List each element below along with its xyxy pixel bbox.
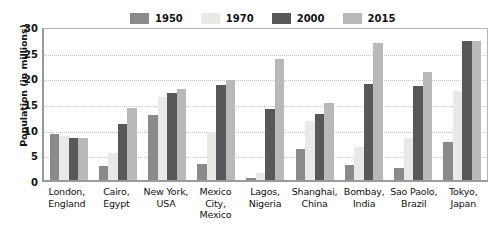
x-axis-labels: London,EnglandCairo,EgyptNew York,USAMex… xyxy=(42,186,488,221)
bar-2000[interactable] xyxy=(364,84,374,181)
legend-swatch-icon xyxy=(201,13,220,24)
x-axis-label: Sao Paolo,Brazil xyxy=(389,186,439,221)
legend-swatch-icon xyxy=(130,13,149,24)
x-axis-label-line: Mexico xyxy=(191,209,241,221)
x-axis-label: New York,USA xyxy=(141,186,191,221)
y-tick-label: 0 xyxy=(16,177,38,188)
bar-group xyxy=(93,29,142,180)
y-axis-ticks: 051015202530 xyxy=(14,0,38,227)
y-tick-label: 20 xyxy=(16,74,38,85)
x-axis-label-line: Nigeria xyxy=(240,198,290,210)
bar-1970[interactable] xyxy=(59,136,69,180)
bar-group xyxy=(192,29,241,180)
bar-group xyxy=(44,29,93,180)
bar-2000[interactable] xyxy=(118,124,128,180)
x-axis-label-line: Sao Paolo, xyxy=(389,186,439,198)
x-axis-label-line: Japan xyxy=(439,198,489,210)
bar-2000[interactable] xyxy=(167,93,177,180)
bar-1950[interactable] xyxy=(296,149,306,180)
legend-item-1950[interactable]: 1950 xyxy=(130,13,183,24)
bar-2015[interactable] xyxy=(275,59,285,180)
bar-1970[interactable] xyxy=(453,91,463,180)
y-tick-label: 25 xyxy=(16,48,38,59)
bar-1950[interactable] xyxy=(197,164,207,180)
bar-groups xyxy=(44,29,487,180)
bar-2000[interactable] xyxy=(216,85,226,180)
x-axis-label-line: City, xyxy=(191,198,241,210)
bar-2000[interactable] xyxy=(69,138,79,180)
bar-2000[interactable] xyxy=(315,114,325,180)
bar-2000[interactable] xyxy=(462,41,472,180)
bar-1950[interactable] xyxy=(50,134,60,180)
bar-1950[interactable] xyxy=(99,166,109,180)
legend-swatch-icon xyxy=(272,13,291,24)
population-bar-chart: Population (in millions) 051015202530 19… xyxy=(0,0,493,227)
bar-group xyxy=(241,29,290,180)
x-axis-label-line: Shanghai, xyxy=(290,186,340,198)
bar-2015[interactable] xyxy=(423,72,433,180)
bar-2015[interactable] xyxy=(78,138,88,180)
bar-1950[interactable] xyxy=(246,178,256,180)
legend-swatch-icon xyxy=(343,13,362,24)
x-axis-label-line: Mexico xyxy=(191,186,241,198)
y-tick-label: 5 xyxy=(16,151,38,162)
legend-item-2000[interactable]: 2000 xyxy=(272,13,325,24)
bar-1950[interactable] xyxy=(345,165,355,180)
x-axis-label-line: China xyxy=(290,198,340,210)
plot-area xyxy=(42,28,488,182)
bar-2000[interactable] xyxy=(413,86,423,180)
bar-group xyxy=(389,29,438,180)
legend-item-1970[interactable]: 1970 xyxy=(201,13,254,24)
x-axis-label: Lagos,Nigeria xyxy=(240,186,290,221)
x-axis-label-line: India xyxy=(339,198,389,210)
x-axis-label: Bombay,India xyxy=(339,186,389,221)
bar-2015[interactable] xyxy=(226,80,236,180)
x-axis-label-line: USA xyxy=(141,198,191,210)
x-axis-label-line: Tokyo, xyxy=(439,186,489,198)
bar-1950[interactable] xyxy=(394,168,404,180)
bar-1970[interactable] xyxy=(108,153,118,180)
x-axis-label-line: London, xyxy=(42,186,92,198)
x-axis-label-line: England xyxy=(42,198,92,210)
bar-1970[interactable] xyxy=(256,173,266,180)
y-tick-label: 30 xyxy=(16,23,38,34)
bar-1950[interactable] xyxy=(443,142,453,181)
bar-1950[interactable] xyxy=(148,115,158,180)
bar-2015[interactable] xyxy=(177,89,187,180)
bar-2015[interactable] xyxy=(373,43,383,180)
bar-2015[interactable] xyxy=(472,41,482,180)
bar-1970[interactable] xyxy=(207,132,217,180)
x-axis-label: MexicoCity,Mexico xyxy=(191,186,241,221)
bar-2000[interactable] xyxy=(265,109,275,180)
x-axis-label-line: New York, xyxy=(141,186,191,198)
legend-label: 1950 xyxy=(155,13,183,24)
bar-1970[interactable] xyxy=(305,121,315,180)
x-axis-label: Cairo,Egypt xyxy=(92,186,142,221)
y-tick-label: 10 xyxy=(16,125,38,136)
bar-2015[interactable] xyxy=(127,108,137,180)
x-axis-label-line: Bombay, xyxy=(339,186,389,198)
bar-group xyxy=(142,29,191,180)
x-axis-label: Tokyo,Japan xyxy=(439,186,489,221)
bar-group xyxy=(290,29,339,180)
legend-label: 1970 xyxy=(226,13,254,24)
x-axis-label-line: Cairo, xyxy=(92,186,142,198)
bar-1970[interactable] xyxy=(404,138,414,180)
bar-group xyxy=(438,29,487,180)
chart-legend: 1950197020002015 xyxy=(130,13,395,24)
x-axis-label-line: Egypt xyxy=(92,198,142,210)
legend-label: 2000 xyxy=(297,13,325,24)
x-axis-label: London,England xyxy=(42,186,92,221)
bar-2015[interactable] xyxy=(324,103,334,181)
x-axis-label-line: Lagos, xyxy=(240,186,290,198)
bar-1970[interactable] xyxy=(158,97,168,180)
legend-label: 2015 xyxy=(368,13,396,24)
y-tick-label: 15 xyxy=(16,100,38,111)
x-axis-label: Shanghai,China xyxy=(290,186,340,221)
bar-1970[interactable] xyxy=(354,147,364,180)
legend-item-2015[interactable]: 2015 xyxy=(343,13,396,24)
x-axis-label-line: Brazil xyxy=(389,198,439,210)
bar-group xyxy=(339,29,388,180)
